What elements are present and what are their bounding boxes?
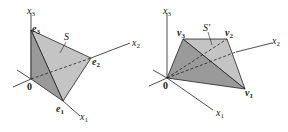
diagram-canvas: x3 x2 x1 e3 e2 e1 0 S x3 x2 x1 v3 v2 v1 …	[0, 0, 288, 132]
origin-label: 0	[163, 80, 168, 91]
x2-axis	[91, 43, 130, 58]
origin-label: 0	[27, 81, 32, 92]
x2-axis	[236, 43, 272, 52]
x2-axis-label: x2	[131, 37, 140, 50]
vertex-e1-label: e1	[56, 103, 64, 116]
vertex-v2-label: v2	[225, 27, 233, 40]
x2-axis-label: x2	[271, 35, 280, 48]
x1-axis	[63, 101, 80, 116]
figure-right: x3 x2 x1 v3 v2 v1 0 S′	[149, 5, 280, 120]
vertex-v3-label: v3	[177, 27, 185, 40]
figure-left: x3 x2 x1 e3 e2 e1 0 S	[13, 5, 140, 124]
x1-axis-negative	[17, 70, 31, 79]
x1-axis-negative	[153, 70, 167, 78]
x3-axis-label: x3	[26, 5, 35, 18]
x3-axis-label: x3	[162, 5, 171, 18]
x1-axis-label: x1	[79, 111, 88, 124]
set-s-prime-label: S′	[203, 22, 211, 33]
vertex-v1-label: v1	[245, 87, 253, 100]
vertex-e2-label: e2	[92, 56, 100, 69]
x1-axis-label: x1	[215, 107, 224, 120]
set-s-label: S	[64, 31, 69, 42]
